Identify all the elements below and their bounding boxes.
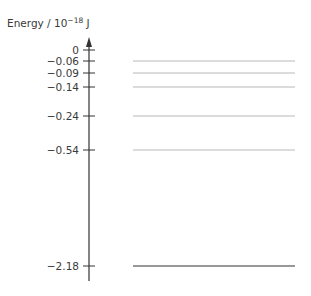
- tick-label: −0.14: [47, 81, 79, 93]
- tick-label: −0.09: [47, 67, 79, 79]
- axis-title: Energy / 10−18 J: [7, 16, 90, 29]
- tick-label: −0.06: [47, 55, 79, 67]
- tick-label: −2.18: [47, 260, 79, 272]
- tick-label: −0.54: [47, 144, 79, 156]
- axis-title-unit: J: [83, 17, 89, 29]
- tick-label: −0.24: [47, 110, 79, 122]
- axis-title-exponent: −18: [67, 16, 83, 25]
- axis-title-base: Energy / 10: [7, 17, 67, 29]
- axis-arrow-icon: [86, 37, 92, 47]
- energy-level-diagram: Energy / 10−18 J 0−0.06−0.09−0.14−0.24−0…: [0, 0, 311, 296]
- levels: 0−0.06−0.09−0.14−0.24−0.54−2.18: [47, 44, 295, 272]
